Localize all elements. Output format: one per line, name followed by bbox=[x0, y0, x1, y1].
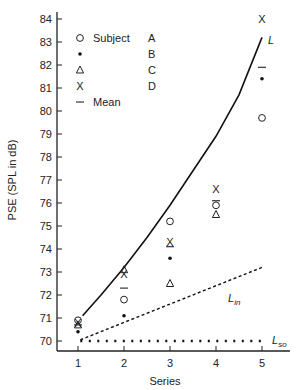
circle-marker bbox=[259, 115, 266, 122]
dot-marker bbox=[122, 314, 126, 318]
legend-subject-b: B bbox=[148, 48, 155, 60]
legend-header: Subject bbox=[93, 32, 130, 44]
dot-marker bbox=[76, 330, 80, 334]
circle-marker bbox=[121, 296, 128, 303]
x-axis-label: Series bbox=[149, 375, 181, 387]
y-tick-label: 70 bbox=[40, 335, 52, 347]
x-marker: X bbox=[74, 317, 82, 329]
data-points: XXXXX bbox=[74, 13, 266, 334]
x-marker: X bbox=[212, 183, 220, 195]
y-tick-label: 80 bbox=[40, 105, 52, 117]
x-tick-label: 1 bbox=[75, 357, 81, 369]
y-tick-label: 83 bbox=[40, 36, 52, 48]
y-tick-label: 77 bbox=[40, 174, 52, 186]
x-marker: X bbox=[76, 80, 84, 92]
x-tick-label: 5 bbox=[259, 357, 265, 369]
line-annotations: LLinLso bbox=[228, 34, 287, 349]
legend-subject-c: C bbox=[148, 64, 156, 76]
x-marker: X bbox=[258, 13, 266, 25]
dot-marker bbox=[260, 77, 264, 81]
y-tick-label: 76 bbox=[40, 197, 52, 209]
dot-marker bbox=[168, 256, 172, 260]
x-tick-label: 2 bbox=[121, 357, 127, 369]
line-l bbox=[83, 37, 262, 315]
triangle-marker bbox=[76, 66, 83, 73]
circle-marker bbox=[213, 202, 220, 209]
dot-marker bbox=[78, 52, 82, 56]
legend-mean-label: Mean bbox=[93, 96, 121, 108]
y-tick-label: 79 bbox=[40, 128, 52, 140]
model-lines bbox=[80, 37, 262, 341]
y-tick-label: 75 bbox=[40, 220, 52, 232]
x-marker: X bbox=[120, 268, 128, 280]
legend: ABCXDMeanSubject bbox=[76, 32, 156, 108]
y-tick-label: 81 bbox=[40, 82, 52, 94]
x-tick-label: 3 bbox=[167, 357, 173, 369]
y-tick-label: 74 bbox=[40, 243, 52, 255]
pse-chart: 70717273747576777879808182838412345Serie… bbox=[0, 0, 300, 390]
circle-marker bbox=[77, 35, 84, 42]
label-L: L bbox=[268, 34, 274, 46]
y-tick-label: 73 bbox=[40, 266, 52, 278]
y-tick-label: 82 bbox=[40, 59, 52, 71]
y-tick-label: 72 bbox=[40, 289, 52, 301]
label-L-in: Lin bbox=[228, 292, 241, 307]
triangle-marker bbox=[166, 280, 173, 287]
y-tick-label: 78 bbox=[40, 151, 52, 163]
circle-marker bbox=[167, 218, 174, 225]
y-tick-label: 84 bbox=[40, 13, 52, 25]
label-L-so: Lso bbox=[272, 334, 287, 349]
y-tick-label: 71 bbox=[40, 312, 52, 324]
triangle-marker bbox=[212, 211, 219, 218]
x-tick-label: 4 bbox=[213, 357, 219, 369]
legend-subject-d: D bbox=[148, 80, 156, 92]
y-axis-label: PSE (SPL in dB) bbox=[6, 140, 18, 221]
legend-subject-a: A bbox=[148, 32, 156, 44]
